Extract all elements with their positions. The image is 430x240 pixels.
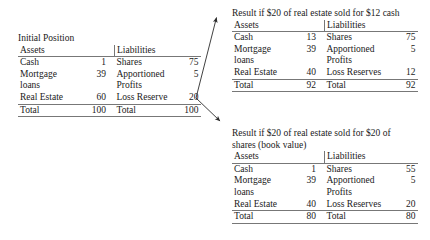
table-row: Real Estate 60 Loss Reserve 20 [18,92,201,104]
liabilities-header: Liabilities [325,151,391,163]
assets-total-value: 80 [287,211,318,224]
liabilities-total-value: 100 [177,104,201,117]
initial-position-title: Initial Position [18,33,201,45]
asset-label: Mortgage loans [18,69,78,92]
liabilities-header: Liabilities [325,20,391,32]
table-row: Mortgage loans 39 Apportioned Profits 5 [18,69,201,92]
asset-value: 39 [287,175,318,198]
cash-case-block: Result if $20 of real estate sold for $1… [232,8,424,92]
asset-value: 60 [78,92,108,104]
liability-label: Apportioned Profits [115,69,177,92]
assets-total-label: Total [18,104,78,117]
liabilities-header: Liabilities [115,45,177,57]
liability-label: Loss Reserves [325,199,391,211]
asset-value: 13 [287,32,318,44]
liability-label: Apportioned Profits [325,44,391,67]
table-header-row: Assets Liabilities [232,20,418,32]
liabilities-total-label: Total [325,79,391,92]
asset-value: 1 [287,163,318,175]
liability-value: 5 [391,44,418,67]
asset-label: Mortgage loans [232,44,287,67]
liability-value: 55 [391,163,418,175]
assets-total-label: Total [232,79,287,92]
assets-header: Assets [232,151,287,163]
table-total-row: Total 80 Total 80 [232,211,418,224]
assets-header-value [78,45,108,57]
table-row: Cash 1 Shares 55 [232,163,418,175]
liabilities-total-value: 92 [391,79,418,92]
liability-value: 20 [391,199,418,211]
initial-position-table: Assets Liabilities Cash 1 Shares 75 Mort… [18,45,201,118]
table-row: Real Estate 40 Loss Reserves 12 [232,67,418,79]
asset-value: 40 [287,67,318,79]
assets-header-value [287,151,318,163]
shares-case-block: Result if $20 of real estate sold for $2… [232,128,418,224]
asset-label: Real Estate [18,92,78,104]
table-row: Cash 1 Shares 75 [18,57,201,69]
liability-label: Shares [325,32,391,44]
liabilities-header-value [177,45,201,57]
assets-total-value: 100 [78,104,108,117]
liability-value: 75 [391,32,418,44]
liability-label: Loss Reserve [115,92,177,104]
assets-total-label: Total [232,211,287,224]
asset-value: 39 [287,44,318,67]
initial-position-block: Initial Position Assets Liabilities Cas [18,33,201,117]
table-row: Cash 13 Shares 75 [232,32,418,44]
table-header-row: Assets Liabilities [18,45,201,57]
diagram-canvas: Initial Position Assets Liabilities Cas [0,0,430,240]
assets-header: Assets [18,45,78,57]
liability-label: Shares [115,57,177,69]
shares-case-title: Result if $20 of real estate sold for $2… [232,128,410,151]
asset-label: Real Estate [232,199,287,211]
cash-case-table: Assets Liabilities Cash 13 Shares 75 Mor… [232,20,418,93]
table-total-row: Total 92 Total 92 [232,79,418,92]
asset-value: 1 [78,57,108,69]
table-row: Mortgage loans 39 Apportioned Profits 5 [232,44,418,67]
table-row: Real Estate 40 Loss Reserves 20 [232,199,418,211]
table-header-row: Assets Liabilities [232,151,418,163]
liability-label: Shares [325,163,391,175]
liabilities-header-value [391,151,418,163]
assets-header: Assets [232,20,287,32]
asset-value: 40 [287,199,318,211]
liability-label: Loss Reserves [325,67,391,79]
cash-case-title: Result if $20 of real estate sold for $1… [232,8,424,20]
liability-value: 5 [391,175,418,198]
liabilities-total-value: 80 [391,211,418,224]
asset-label: Mortgage loans [232,175,287,198]
asset-label: Real Estate [232,67,287,79]
liability-value: 5 [177,69,201,92]
asset-label: Cash [18,57,78,69]
assets-header-value [287,20,318,32]
liability-label: Apportioned Profits [325,175,391,198]
liabilities-total-label: Total [325,211,391,224]
asset-value: 39 [78,69,108,92]
asset-label: Cash [232,32,287,44]
assets-total-value: 92 [287,79,318,92]
liabilities-total-label: Total [115,104,177,117]
liabilities-header-value [391,20,418,32]
liability-value: 75 [177,57,201,69]
table-row: Mortgage loans 39 Apportioned Profits 5 [232,175,418,198]
shares-case-table: Assets Liabilities Cash 1 Shares 55 Mort… [232,151,418,224]
table-total-row: Total 100 Total 100 [18,104,201,117]
liability-value: 12 [391,67,418,79]
asset-label: Cash [232,163,287,175]
liability-value: 20 [177,92,201,104]
